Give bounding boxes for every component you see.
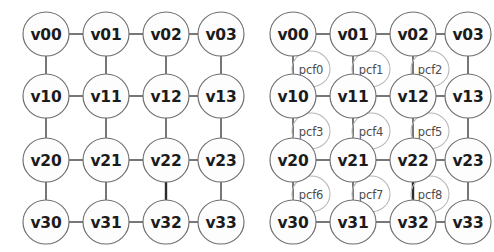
variable-node-v13[interactable]: v13 <box>198 74 244 118</box>
variable-node-v30[interactable]: v30 <box>270 200 316 244</box>
variable-node-label: v03 <box>205 26 236 44</box>
variable-node-v00[interactable]: v00 <box>23 12 69 56</box>
variable-node-label: v10 <box>30 88 61 106</box>
variable-node-v32[interactable]: v32 <box>390 200 436 244</box>
variable-node-v11[interactable]: v11 <box>330 74 376 118</box>
panel-factor-graph: pcf0pcf1pcf2pcf3pcf4pcf5pcf6pcf7pcf8v00v… <box>247 0 494 252</box>
factor-node-label: pcf1 <box>359 63 384 77</box>
variable-node-v03[interactable]: v03 <box>445 12 491 56</box>
variable-node-label: v11 <box>90 88 121 106</box>
variable-node-v22[interactable]: v22 <box>143 138 189 182</box>
variable-node-label: v12 <box>150 88 181 106</box>
variable-node-label: v20 <box>30 152 61 170</box>
variable-node-v31[interactable]: v31 <box>330 200 376 244</box>
variable-node-label: v20 <box>277 152 308 170</box>
variable-node-v01[interactable]: v01 <box>83 12 129 56</box>
factor-node-label: pcf8 <box>418 188 443 202</box>
variable-node-label: v13 <box>205 88 236 106</box>
factor-node-label: pcf5 <box>418 125 443 139</box>
panel-variable-grid-graph: v00v01v02v03v10v11v12v13v20v21v22v23v30v… <box>0 0 247 252</box>
variable-node-label: v22 <box>150 152 181 170</box>
variable-node-v03[interactable]: v03 <box>198 12 244 56</box>
variable-node-v00[interactable]: v00 <box>270 12 316 56</box>
variable-node-label: v30 <box>30 214 61 232</box>
variable-node-label: v02 <box>150 26 181 44</box>
variable-node-v20[interactable]: v20 <box>270 138 316 182</box>
variable-node-label: v11 <box>337 88 368 106</box>
variable-node-v21[interactable]: v21 <box>330 138 376 182</box>
variable-node-label: v32 <box>150 214 181 232</box>
variable-node-label: v21 <box>337 152 368 170</box>
variable-node-label: v13 <box>452 88 483 106</box>
variable-node-v12[interactable]: v12 <box>143 74 189 118</box>
variable-node-label: v30 <box>277 214 308 232</box>
variable-node-label: v21 <box>90 152 121 170</box>
variable-node-v11[interactable]: v11 <box>83 74 129 118</box>
variable-node-label: v31 <box>337 214 368 232</box>
variable-node-v30[interactable]: v30 <box>23 200 69 244</box>
variable-node-v22[interactable]: v22 <box>390 138 436 182</box>
variable-node-label: v31 <box>90 214 121 232</box>
variable-node-label: v33 <box>452 214 483 232</box>
variable-node-label: v01 <box>90 26 121 44</box>
variable-node-v01[interactable]: v01 <box>330 12 376 56</box>
variable-node-label: v01 <box>337 26 368 44</box>
variable-node-label: v23 <box>205 152 236 170</box>
variable-node-label: v12 <box>397 88 428 106</box>
variable-node-label: v10 <box>277 88 308 106</box>
variable-node-label: v32 <box>397 214 428 232</box>
figure-canvas: v00v01v02v03v10v11v12v13v20v21v22v23v30v… <box>0 0 494 252</box>
variable-node-v02[interactable]: v02 <box>390 12 436 56</box>
factor-node-label: pcf2 <box>418 63 443 77</box>
variable-node-label: v00 <box>30 26 61 44</box>
variable-node-label: v33 <box>205 214 236 232</box>
factor-graph-svg: pcf0pcf1pcf2pcf3pcf4pcf5pcf6pcf7pcf8v00v… <box>247 0 494 252</box>
factor-node-label: pcf3 <box>299 125 324 139</box>
variable-node-label: v00 <box>277 26 308 44</box>
grid-graph-svg: v00v01v02v03v10v11v12v13v20v21v22v23v30v… <box>0 0 247 252</box>
factor-node-label: pcf6 <box>299 188 324 202</box>
variable-node-label: v03 <box>452 26 483 44</box>
variable-node-v33[interactable]: v33 <box>445 200 491 244</box>
variable-node-v20[interactable]: v20 <box>23 138 69 182</box>
variable-node-v13[interactable]: v13 <box>445 74 491 118</box>
variable-node-label: v02 <box>397 26 428 44</box>
variable-node-v23[interactable]: v23 <box>198 138 244 182</box>
variable-node-v33[interactable]: v33 <box>198 200 244 244</box>
variable-node-v32[interactable]: v32 <box>143 200 189 244</box>
factor-node-label: pcf7 <box>359 188 384 202</box>
variable-node-v02[interactable]: v02 <box>143 12 189 56</box>
factor-node-label: pcf0 <box>299 63 324 77</box>
factor-node-label: pcf4 <box>359 125 384 139</box>
variable-node-v10[interactable]: v10 <box>23 74 69 118</box>
variable-node-v21[interactable]: v21 <box>83 138 129 182</box>
variable-node-v31[interactable]: v31 <box>83 200 129 244</box>
variable-node-v10[interactable]: v10 <box>270 74 316 118</box>
variable-node-label: v23 <box>452 152 483 170</box>
variable-node-label: v22 <box>397 152 428 170</box>
variable-node-v23[interactable]: v23 <box>445 138 491 182</box>
variable-node-v12[interactable]: v12 <box>390 74 436 118</box>
